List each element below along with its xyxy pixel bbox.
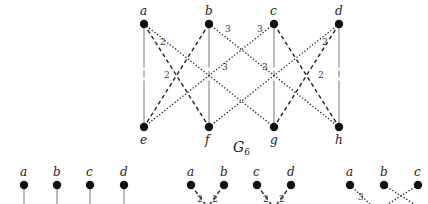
vertex-c [414, 181, 422, 189]
edge-weight-label: 2 [279, 194, 285, 204]
vertex-label: c [270, 4, 277, 18]
edge-weight-label: 2 [160, 37, 166, 47]
edge-weight-label: 3 [358, 192, 364, 202]
edges-layer [144, 24, 339, 127]
matching-3: 3abc [346, 165, 422, 204]
vertex-label: a [346, 165, 353, 179]
edge-weight-label: 3 [225, 24, 231, 34]
edge-weight-label: 3 [222, 62, 228, 72]
vertex-label: c [414, 165, 421, 179]
vertex-f [205, 123, 213, 131]
vertex-b [205, 20, 213, 28]
edge-weight-label: 2 [318, 70, 324, 80]
vertex-c [86, 181, 94, 189]
vertex-b [220, 181, 228, 189]
vertex-d [335, 20, 343, 28]
vertex-a [140, 20, 148, 28]
vertex-d [120, 181, 128, 189]
vertex-e [140, 123, 148, 131]
vertex-label: c [253, 165, 260, 179]
vertex-b [53, 181, 61, 189]
vertex-label: d [335, 4, 343, 18]
vertex-g [270, 123, 278, 131]
vertex-label: b [380, 165, 388, 179]
vertex-b [380, 181, 388, 189]
edge-weight-label: 2 [263, 194, 269, 204]
subgraphs-layer: abcd2a2b2c2d3abc [20, 165, 422, 204]
edge-labels-layer: 22223333 [160, 24, 328, 80]
vertex-label: a [140, 4, 147, 18]
edge-weight-label: 3 [262, 62, 268, 72]
vertex-label: h [335, 133, 343, 147]
edge-weight-label: 2 [212, 194, 218, 204]
vertex-label: b [53, 165, 61, 179]
matching-1: abcd [20, 165, 128, 204]
edge-weight-label: 2 [322, 37, 328, 47]
edge-weight-label: 2 [197, 194, 203, 204]
edge-weight-label: 2 [164, 70, 170, 80]
vertex-a [346, 181, 354, 189]
graph-title: G6 [233, 139, 250, 157]
vertex-label: a [187, 165, 194, 179]
edge-weight-label: 3 [257, 24, 263, 34]
vertex-label: d [287, 165, 295, 179]
vertex-label: c [86, 165, 93, 179]
vertex-a [20, 181, 28, 189]
graph-canvas: 22223333 abcdefgh G6 abcd2a2b2c2d3abc [0, 0, 428, 204]
matching-2: 2a2b2c2d [187, 165, 295, 204]
vertex-label: e [140, 133, 147, 147]
vertex-h [335, 123, 343, 131]
vertex-label: g [270, 133, 278, 147]
vertex-c [253, 181, 261, 189]
nodes-layer: abcdefgh [140, 4, 343, 147]
vertex-label: d [120, 165, 128, 179]
vertex-a [187, 181, 195, 189]
vertex-c [270, 20, 278, 28]
vertex-label: a [20, 165, 27, 179]
vertex-label: b [205, 4, 213, 18]
vertex-d [287, 181, 295, 189]
vertex-label: b [220, 165, 228, 179]
vertex-label: f [204, 133, 212, 147]
